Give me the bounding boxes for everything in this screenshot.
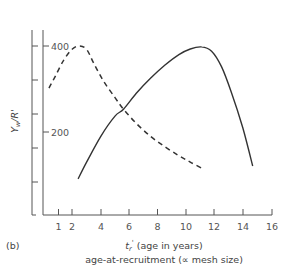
x-tick-label-2: 2 bbox=[69, 221, 75, 232]
x-tick-label-1: 1 bbox=[55, 221, 61, 232]
y-axis bbox=[43, 30, 49, 215]
y-axis-label: Yw/R' bbox=[9, 109, 22, 133]
panel-label: (b) bbox=[6, 240, 19, 251]
x-tick-label-8: 8 bbox=[154, 221, 160, 232]
chart: 400 200 1 2 4 6 8 10 12 14 16 Yw/R' (b) … bbox=[0, 0, 286, 274]
x-tick-label-4: 4 bbox=[98, 221, 104, 232]
x-axis-label: tr' (age in years) bbox=[125, 239, 202, 253]
x-tick-label-10: 10 bbox=[180, 221, 192, 232]
x-tick-label-14: 14 bbox=[237, 221, 249, 232]
outer-y-axis bbox=[32, 30, 38, 215]
solid-curve bbox=[78, 47, 253, 179]
y-tick-label-400: 400 bbox=[51, 41, 69, 52]
x-tick-label-6: 6 bbox=[126, 221, 132, 232]
y-tick-label-200: 200 bbox=[51, 127, 69, 138]
x-tick-label-16: 16 bbox=[266, 221, 278, 232]
x-tick-label-12: 12 bbox=[208, 221, 220, 232]
x-axis bbox=[43, 209, 272, 215]
x-axis-label-line2: age-at-recruitment (∝ mesh size) bbox=[85, 254, 243, 265]
